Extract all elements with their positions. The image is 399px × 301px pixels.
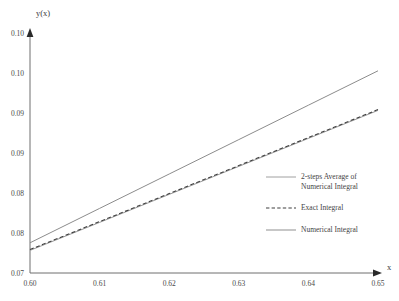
y-axis-title: y(x) bbox=[36, 8, 50, 18]
x-tick-label: 0.65 bbox=[361, 279, 395, 288]
x-tick-label: 0.61 bbox=[83, 279, 117, 288]
y-tick-label: 0.10 bbox=[0, 29, 24, 38]
x-tick-label: 0.60 bbox=[13, 279, 47, 288]
x-axis-arrow bbox=[373, 270, 382, 277]
y-tick-label: 0.10 bbox=[0, 69, 24, 78]
x-tick-label: 0.63 bbox=[222, 279, 256, 288]
y-tick-label: 0.09 bbox=[0, 109, 24, 118]
x-axis-title: x bbox=[387, 262, 391, 272]
plot-canvas bbox=[0, 0, 399, 301]
legend-label-numerical-integral: Numerical Integral bbox=[301, 225, 358, 235]
x-tick-label: 0.62 bbox=[152, 279, 186, 288]
y-tick-label: 0.09 bbox=[0, 149, 24, 158]
y-axis-arrow bbox=[27, 28, 34, 37]
legend-label-exact-integral: Exact Integral bbox=[301, 203, 343, 213]
y-tick-label: 0.08 bbox=[0, 229, 24, 238]
legend-label-2steps-average: 2-steps Average of Numerical Integral bbox=[301, 172, 358, 192]
y-tick-label: 0.08 bbox=[0, 189, 24, 198]
chart-figure: y(x) x 0.10 0.10 0.09 0.09 0.08 0.08 0.0… bbox=[0, 0, 399, 301]
series-2steps-average bbox=[30, 71, 378, 243]
y-tick-label: 0.07 bbox=[0, 269, 24, 278]
x-tick-label: 0.64 bbox=[291, 279, 325, 288]
